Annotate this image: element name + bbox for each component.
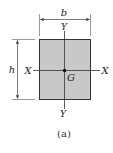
height-label: h bbox=[9, 65, 15, 75]
centroid-dot bbox=[63, 69, 67, 73]
cross-section-figure: b Y h X X G Y (a) bbox=[0, 0, 113, 153]
x-axis-left-label: X bbox=[24, 66, 31, 76]
centroid-label: G bbox=[67, 73, 75, 83]
figure-caption: (a) bbox=[57, 129, 71, 139]
y-axis-bottom-label: Y bbox=[60, 110, 66, 119]
width-label: b bbox=[61, 8, 67, 18]
x-axis-right-label: X bbox=[101, 66, 108, 76]
y-axis-top-label: Y bbox=[61, 23, 67, 32]
